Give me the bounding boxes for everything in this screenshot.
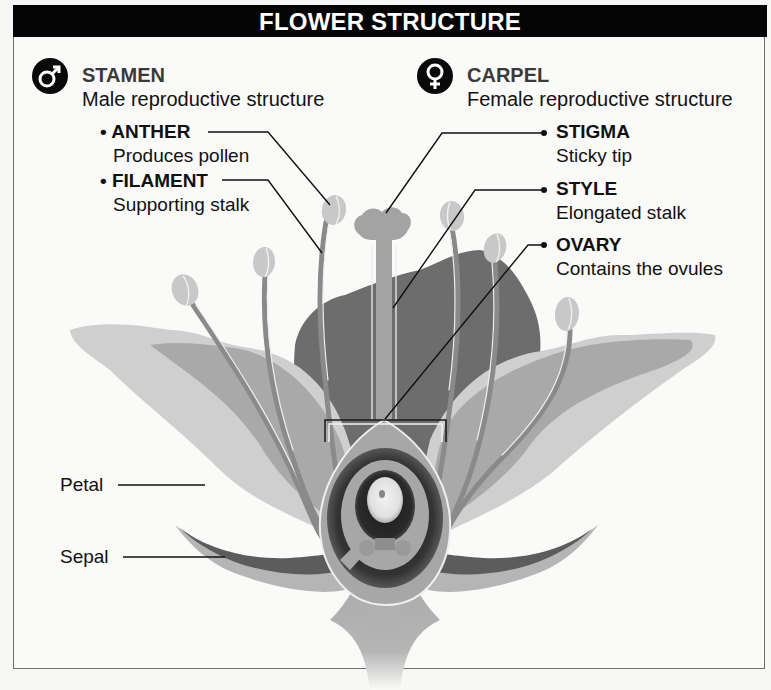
stigma-label: STIGMA: [556, 121, 630, 143]
filament-label: • FILAMENT: [100, 170, 208, 192]
petal-label: Petal: [60, 474, 103, 496]
sepal-label: Sepal: [60, 546, 109, 568]
ovary-label: OVARY: [556, 234, 621, 256]
stamen-subtitle: Male reproductive structure: [82, 88, 324, 110]
stigma-description: Sticky tip: [556, 145, 632, 167]
filament-name: FILAMENT: [112, 170, 208, 191]
filament-description: Supporting stalk: [113, 194, 249, 216]
anther-label: • ANTHER: [100, 121, 190, 143]
style-label: STYLE: [556, 178, 617, 200]
male-symbol-icon: [32, 58, 68, 94]
female-symbol-icon: [417, 58, 453, 94]
anther-name: ANTHER: [111, 121, 190, 142]
stamen-title: STAMEN: [82, 64, 165, 86]
leader-dots: [541, 130, 547, 248]
bullet: •: [100, 121, 107, 142]
ovary-description: Contains the ovules: [556, 258, 723, 280]
carpel-subtitle: Female reproductive structure: [467, 88, 733, 110]
stigma-leader: [386, 133, 542, 213]
style-description: Elongated stalk: [556, 202, 686, 224]
filament-leader: [222, 180, 322, 253]
bullet: •: [100, 170, 107, 191]
anther-description: Produces pollen: [113, 145, 249, 167]
carpel-title: CARPEL: [467, 64, 549, 86]
